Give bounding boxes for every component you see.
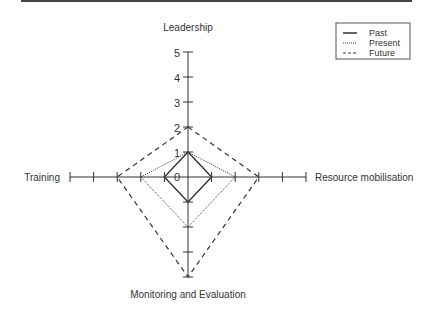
tick-label-3: 3 [174,97,180,109]
tick-label-0: 0 [174,171,180,183]
axis-label-leadership: Leadership [163,22,213,33]
tick-label-5: 5 [174,47,180,59]
axis-label-resource-mobilisation: Resource mobilisation [315,172,413,183]
axes [70,52,306,277]
radar-chart: Leadership Resource mobilisation Monitor… [0,0,431,309]
axis-label-monitoring-evaluation: Monitoring and Evaluation [130,289,246,300]
legend-present-label: Present [369,38,401,48]
tick-label-1: 1 [174,147,180,159]
legend: Past Present Future [336,23,410,59]
legend-past-label: Past [369,28,388,38]
axis-label-training: Training [24,172,60,183]
legend-future-label: Future [369,48,395,58]
tick-label-2: 2 [174,122,180,134]
tick-label-4: 4 [174,72,180,84]
